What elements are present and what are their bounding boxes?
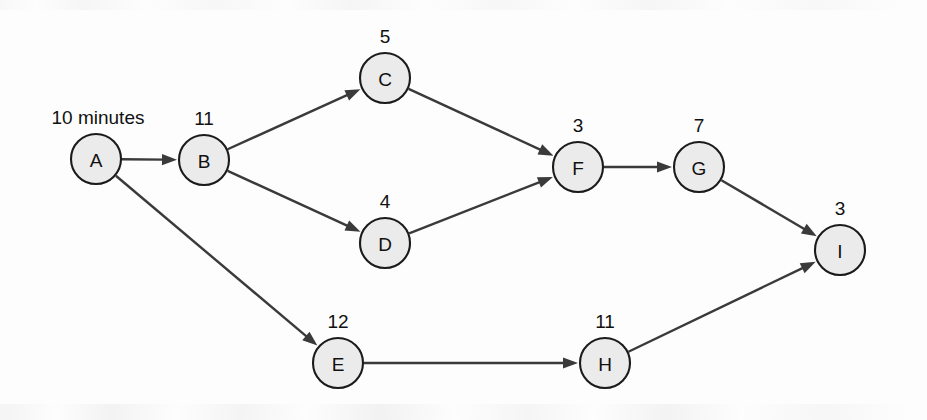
edge-f-to-g: [604, 161, 672, 172]
edges-layer: [116, 89, 817, 369]
node-label-b: B: [198, 151, 211, 172]
node-label-d: D: [378, 234, 392, 255]
edge-a-to-b: [122, 154, 177, 165]
arrowhead-icon: [344, 89, 360, 100]
duration-label-f: 3: [573, 115, 584, 136]
node-i[interactable]: I3: [815, 198, 865, 275]
node-g[interactable]: G7: [674, 115, 724, 192]
edge-a-to-e: [116, 176, 317, 346]
arrowhead-icon: [344, 220, 360, 231]
arrowhead-icon: [162, 154, 177, 165]
arrowhead-icon: [801, 224, 817, 236]
edge-d-to-f: [409, 177, 553, 234]
duration-label-e: 12: [327, 311, 348, 332]
node-a[interactable]: A10 minutes: [52, 107, 145, 184]
duration-label-b: 11: [194, 108, 214, 129]
arrowhead-icon: [563, 357, 578, 368]
node-b[interactable]: B11: [179, 108, 229, 185]
arrowhead-icon: [537, 177, 553, 188]
edge-c-to-f: [409, 89, 554, 156]
arrowhead-icon: [538, 144, 554, 155]
node-label-h: H: [598, 354, 612, 375]
edge-h-to-i: [628, 262, 815, 352]
activity-network-diagram: A10 minutesB11C5D4E12F3G7H11I3: [0, 0, 927, 420]
node-label-g: G: [692, 158, 707, 179]
duration-label-i: 3: [835, 198, 846, 219]
edge-b-to-c: [228, 89, 361, 149]
duration-label-h: 11: [595, 311, 615, 332]
node-c[interactable]: C5: [360, 26, 410, 103]
edge-b-to-d: [228, 171, 361, 232]
node-label-f: F: [572, 158, 584, 179]
node-label-a: A: [90, 150, 103, 171]
node-d[interactable]: D4: [360, 191, 410, 268]
edge-e-to-h: [364, 357, 578, 368]
duration-label-g: 7: [694, 115, 705, 136]
edge-g-to-i: [721, 180, 816, 236]
node-label-c: C: [378, 69, 392, 90]
duration-unit-label-a: 10 minutes: [52, 107, 145, 128]
node-e[interactable]: E12: [313, 311, 363, 388]
diagram-canvas: A10 minutesB11C5D4E12F3G7H11I3: [0, 0, 927, 420]
arrowhead-icon: [800, 262, 816, 274]
node-label-i: I: [837, 241, 842, 262]
duration-label-c: 5: [380, 26, 391, 47]
node-f[interactable]: F3: [553, 115, 603, 192]
duration-label-d: 4: [380, 191, 391, 212]
arrowhead-icon: [657, 161, 672, 172]
node-label-e: E: [332, 354, 345, 375]
node-h[interactable]: H11: [580, 311, 630, 388]
nodes-layer: A10 minutesB11C5D4E12F3G7H11I3: [52, 26, 865, 388]
